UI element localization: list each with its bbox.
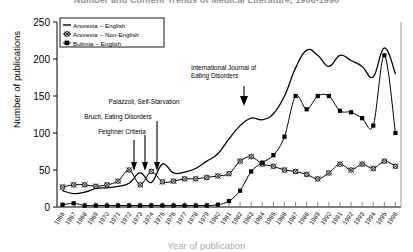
data-point-marker bbox=[194, 203, 198, 207]
data-point-marker bbox=[160, 203, 164, 207]
data-point-marker bbox=[338, 109, 342, 113]
data-point-marker bbox=[293, 169, 299, 175]
series-anorexia-non-english bbox=[60, 154, 399, 190]
data-point-marker bbox=[216, 203, 220, 207]
x-tick-label: 1996 bbox=[385, 210, 399, 226]
data-point-marker bbox=[381, 158, 387, 164]
data-point-marker bbox=[337, 161, 343, 167]
data-point-marker bbox=[237, 158, 243, 164]
data-point-marker bbox=[205, 203, 209, 207]
data-point-marker bbox=[215, 173, 221, 179]
chart-figure: Number and Content Trends of Medical Lit… bbox=[0, 0, 413, 252]
data-point-marker bbox=[315, 176, 321, 182]
data-point-marker bbox=[371, 124, 375, 128]
data-point-marker bbox=[171, 178, 177, 184]
data-point-marker bbox=[204, 175, 210, 181]
ann-feighner: Feighner Criteria bbox=[98, 128, 146, 136]
data-point-marker bbox=[82, 182, 88, 188]
data-point-marker bbox=[126, 167, 132, 173]
data-point-marker bbox=[60, 184, 66, 190]
data-point-marker bbox=[271, 153, 275, 157]
data-point-marker bbox=[326, 170, 332, 176]
y-tick-label: 100 bbox=[33, 128, 50, 139]
ann-ijed-line2: Eating Disorders bbox=[191, 72, 238, 80]
data-point-marker bbox=[359, 161, 365, 167]
data-point-marker bbox=[193, 176, 199, 182]
data-point-marker bbox=[370, 166, 376, 172]
data-point-marker bbox=[327, 94, 331, 98]
y-tick-label: 50 bbox=[39, 165, 51, 176]
ann-bruch: Bruch, Eating Disorders bbox=[84, 113, 152, 121]
data-point-marker bbox=[148, 169, 154, 175]
data-point-marker bbox=[393, 163, 399, 169]
chart-plot: 050100150200250 196619671968196919701971… bbox=[0, 0, 413, 252]
arrow-palazzoli bbox=[154, 121, 160, 171]
data-point-marker bbox=[282, 167, 288, 173]
legend-label-anorexia-nonenglish: Anorexia -- Non-English bbox=[73, 31, 139, 38]
data-point-marker bbox=[83, 203, 87, 207]
data-point-marker bbox=[105, 203, 109, 207]
legend-label-bulimia-english: Bulimia -- English bbox=[73, 40, 122, 47]
arrow-ijed bbox=[240, 86, 248, 106]
legend-label-anorexia-english: Anorexia -- English bbox=[73, 22, 126, 29]
ann-palazzoli: Palazzoli, Self-Starvation bbox=[108, 98, 179, 105]
data-point-marker bbox=[226, 171, 232, 177]
arrow-bruch bbox=[142, 135, 148, 171]
data-point-marker bbox=[238, 189, 242, 193]
data-point-marker bbox=[348, 167, 354, 173]
data-point-marker bbox=[360, 116, 364, 120]
annotation-labels: Palazzoli, Self-Starvation Bruch, Eating… bbox=[84, 64, 256, 136]
y-tick-label: 200 bbox=[33, 54, 50, 65]
data-point-marker bbox=[137, 182, 143, 188]
data-point-marker bbox=[316, 94, 320, 98]
data-point-marker bbox=[71, 182, 77, 188]
data-point-marker bbox=[305, 107, 309, 111]
data-point-marker bbox=[270, 163, 276, 169]
arrow-feighner bbox=[131, 140, 137, 171]
data-point-marker bbox=[116, 203, 120, 207]
data-point-marker bbox=[249, 169, 253, 173]
data-point-marker bbox=[183, 203, 187, 207]
data-point-marker bbox=[115, 178, 121, 184]
data-point-marker bbox=[93, 183, 99, 189]
data-point-marker bbox=[293, 94, 297, 98]
data-point-marker bbox=[260, 161, 264, 165]
y-axis-ticks: 050100150200250 bbox=[33, 17, 57, 213]
data-point-marker bbox=[127, 203, 131, 207]
data-point-marker bbox=[149, 203, 153, 207]
data-point-marker bbox=[393, 131, 397, 135]
data-point-marker bbox=[104, 182, 110, 188]
y-tick-label: 250 bbox=[33, 17, 50, 28]
y-tick-label: 150 bbox=[33, 91, 50, 102]
data-point-marker bbox=[138, 203, 142, 207]
chart-legend: Anorexia -- English Anorexia -- Non-Engl… bbox=[60, 18, 164, 47]
data-point-marker bbox=[171, 203, 175, 207]
y-tick-label: 0 bbox=[44, 202, 50, 213]
data-point-marker bbox=[349, 110, 353, 114]
data-point-marker bbox=[227, 199, 231, 203]
data-point-marker bbox=[72, 201, 76, 205]
data-point-marker bbox=[382, 53, 386, 57]
data-point-marker bbox=[94, 203, 98, 207]
data-point-marker bbox=[282, 135, 286, 139]
ann-ijed-line1: International Journal of bbox=[191, 64, 256, 71]
data-point-marker bbox=[304, 172, 310, 178]
data-point-marker bbox=[60, 203, 64, 207]
data-point-marker bbox=[182, 176, 188, 182]
data-point-marker bbox=[160, 179, 166, 185]
data-point-marker bbox=[248, 154, 254, 160]
